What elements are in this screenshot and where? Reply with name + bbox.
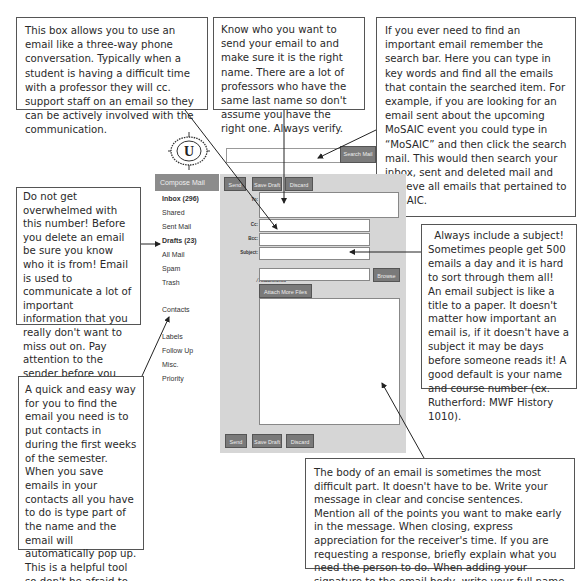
compose-mail-button[interactable]: Compose Mail bbox=[155, 174, 219, 191]
subject-label: Subject: bbox=[218, 250, 258, 255]
sidebar-item-labels[interactable]: Labels bbox=[162, 333, 183, 340]
sidebar-item-shared[interactable]: Shared bbox=[162, 209, 185, 216]
callout-to-explanation: Know who you want to send your email to … bbox=[213, 17, 365, 110]
search-mail-button[interactable]: Search Mail bbox=[340, 146, 376, 163]
callout-body-explanation: The body of an email is sometimes the mo… bbox=[305, 458, 575, 569]
callout-subject-title: Always include a subject! bbox=[428, 229, 570, 243]
search-input[interactable] bbox=[226, 148, 342, 163]
callout-search-explanation: If you ever need to find an important em… bbox=[376, 17, 576, 217]
save-draft-button-bottom[interactable]: Save Draft bbox=[252, 434, 282, 448]
subject-field[interactable] bbox=[259, 247, 370, 260]
callout-cc-explanation: This box allows you to use an email like… bbox=[16, 17, 208, 110]
attachment-file-field[interactable] bbox=[259, 268, 370, 281]
paperclip-icon: ⁄ bbox=[257, 278, 258, 283]
callout-inbox-explanation: Do not get overwhelmed with this number!… bbox=[16, 187, 141, 325]
attach-more-files-button[interactable]: Attach More Files bbox=[259, 284, 312, 298]
sidebar-item-contacts[interactable]: Contacts bbox=[162, 306, 190, 313]
sidebar-item-inbox[interactable]: Inbox (296) bbox=[162, 195, 199, 202]
callout-subject-text: Sometimes people get 500 emails a day an… bbox=[428, 244, 569, 422]
browse-button[interactable]: Browse bbox=[373, 268, 400, 282]
send-button-bottom[interactable]: Send bbox=[225, 434, 247, 448]
sidebar-item-follow-up[interactable]: Follow Up bbox=[162, 347, 193, 354]
send-button-top[interactable]: Send bbox=[224, 177, 246, 191]
to-label: To: bbox=[218, 197, 258, 202]
sidebar-item-drafts[interactable]: Drafts (23) bbox=[162, 237, 197, 244]
sidebar-item-sent-mail[interactable]: Sent Mail bbox=[162, 223, 191, 230]
sidebar-item-trash[interactable]: Trash bbox=[162, 279, 180, 286]
sidebar-item-priority[interactable]: Priority bbox=[162, 375, 184, 382]
bcc-label: Bcc: bbox=[218, 236, 258, 241]
discard-button-top[interactable]: Discard bbox=[285, 177, 313, 191]
callout-contacts-explanation: A quick and easy way for you to find the… bbox=[18, 376, 144, 550]
cc-label: Cc: bbox=[218, 222, 258, 227]
to-field[interactable] bbox=[259, 192, 399, 218]
university-logo-icon: U bbox=[167, 131, 211, 171]
callout-subject-explanation: Always include a subject! Sometimes peop… bbox=[421, 224, 577, 389]
cc-field[interactable] bbox=[259, 219, 370, 232]
message-body-field[interactable] bbox=[259, 298, 400, 425]
sidebar-item-misc[interactable]: Misc. bbox=[162, 361, 178, 368]
save-draft-button-top[interactable]: Save Draft bbox=[252, 177, 282, 191]
discard-button-bottom[interactable]: Discard bbox=[286, 434, 314, 448]
svg-text:U: U bbox=[184, 144, 194, 159]
bcc-field[interactable] bbox=[259, 233, 370, 246]
sidebar-item-all-mail[interactable]: All Mail bbox=[162, 251, 185, 258]
sidebar-item-spam[interactable]: Spam bbox=[162, 265, 180, 272]
